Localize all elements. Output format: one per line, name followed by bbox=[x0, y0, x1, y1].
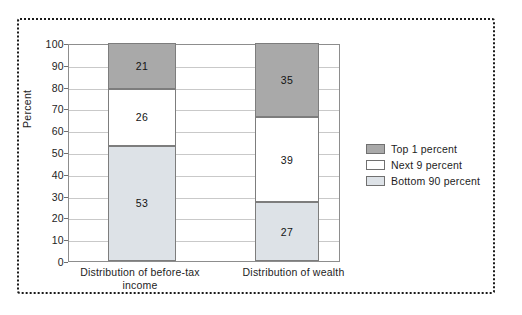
y-tick-mark bbox=[64, 262, 68, 263]
segment-value: 53 bbox=[136, 197, 148, 209]
legend-label-top-1: Top 1 percent bbox=[391, 143, 457, 155]
legend-item-next-9[interactable]: Next 9 percent bbox=[366, 157, 480, 172]
x-category-income: Distribution of before-tax income bbox=[75, 266, 205, 292]
x-category-income-line1: Distribution of before-tax bbox=[75, 266, 205, 279]
legend-swatch-bottom-90-icon bbox=[366, 176, 385, 186]
y-tick-100: 100 bbox=[38, 38, 64, 50]
segment-bottom-90-income[interactable]: 53 bbox=[108, 146, 176, 262]
y-tick-20: 20 bbox=[38, 212, 64, 224]
plot-area: 53 26 21 27 39 35 bbox=[68, 44, 340, 262]
segment-next-9-wealth[interactable]: 39 bbox=[255, 117, 319, 202]
segment-bottom-90-wealth[interactable]: 27 bbox=[255, 202, 319, 261]
y-axis-tick-labels: 100 90 80 70 60 50 40 30 20 10 0 bbox=[38, 44, 64, 262]
legend-item-bottom-90[interactable]: Bottom 90 percent bbox=[366, 173, 480, 188]
legend-label-next-9: Next 9 percent bbox=[391, 159, 462, 171]
y-tick-60: 60 bbox=[38, 125, 64, 137]
x-category-wealth: Distribution of wealth bbox=[231, 266, 356, 279]
y-tick-70: 70 bbox=[38, 103, 64, 115]
x-category-wealth-line1: Distribution of wealth bbox=[231, 266, 356, 279]
segment-value: 39 bbox=[281, 154, 293, 166]
chart-figure: Percent 100 90 80 70 60 50 40 30 20 10 0 bbox=[0, 0, 522, 315]
segment-value: 26 bbox=[136, 111, 148, 123]
chart-legend: Top 1 percent Next 9 percent Bottom 90 p… bbox=[366, 141, 480, 189]
y-tick-50: 50 bbox=[38, 147, 64, 159]
y-axis-title: Percent bbox=[21, 90, 33, 128]
segment-value: 21 bbox=[136, 60, 148, 72]
legend-swatch-next-9-icon bbox=[366, 160, 385, 170]
legend-label-bottom-90: Bottom 90 percent bbox=[391, 175, 480, 187]
legend-item-top-1[interactable]: Top 1 percent bbox=[366, 141, 480, 156]
y-tick-0: 0 bbox=[38, 256, 64, 268]
bar-income[interactable]: 53 26 21 bbox=[108, 43, 176, 261]
segment-top-1-income[interactable]: 21 bbox=[108, 43, 176, 89]
segment-value: 27 bbox=[281, 226, 293, 238]
y-tick-90: 90 bbox=[38, 60, 64, 72]
y-tick-80: 80 bbox=[38, 82, 64, 94]
x-category-income-line2: income bbox=[75, 279, 205, 292]
legend-swatch-top-1-icon bbox=[366, 144, 385, 154]
y-tick-40: 40 bbox=[38, 169, 64, 181]
segment-value: 35 bbox=[281, 74, 293, 86]
segment-top-1-wealth[interactable]: 35 bbox=[255, 43, 319, 117]
segment-next-9-income[interactable]: 26 bbox=[108, 89, 176, 146]
y-tick-10: 10 bbox=[38, 234, 64, 246]
y-tick-30: 30 bbox=[38, 191, 64, 203]
bar-wealth[interactable]: 27 39 35 bbox=[255, 43, 319, 261]
